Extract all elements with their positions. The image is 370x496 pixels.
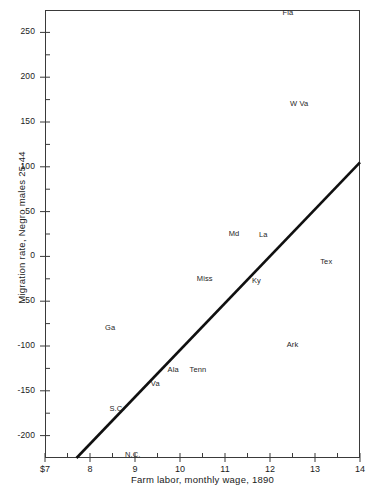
data-point-label: Fla bbox=[283, 9, 294, 17]
x-axis-tick-label: 14 bbox=[340, 464, 370, 474]
plot-area bbox=[45, 10, 360, 458]
data-point-label: Ga bbox=[105, 324, 115, 332]
data-point-label: S.C. bbox=[109, 405, 124, 413]
data-point-label: Tex bbox=[320, 258, 332, 266]
data-point-label: N.C. bbox=[125, 451, 141, 459]
y-axis-title: Migration rate, Negro males 25-44 bbox=[16, 118, 27, 338]
data-point-label: Va bbox=[151, 380, 160, 388]
x-axis-tick-label: 9 bbox=[115, 464, 155, 474]
x-axis-title: Farm labor, monthly wage, 1890 bbox=[45, 474, 360, 485]
data-point-label: Ala bbox=[168, 366, 179, 374]
x-axis-tick-label: 13 bbox=[295, 464, 335, 474]
data-point-label: W Va bbox=[290, 100, 308, 108]
data-point-label: La bbox=[259, 231, 268, 239]
y-axis-tick-label: -200 bbox=[0, 431, 35, 440]
scatter-plot-figure: 250200150100500-50-100-150-200 $78910111… bbox=[0, 0, 370, 496]
x-axis-tick-label: 11 bbox=[205, 464, 245, 474]
y-axis-tick-label: -150 bbox=[0, 386, 35, 395]
data-point-label: Ky bbox=[252, 277, 261, 285]
data-point-label: Miss bbox=[197, 275, 213, 283]
data-point-label: Md bbox=[229, 230, 240, 238]
data-point-label: Ark bbox=[287, 341, 299, 349]
y-axis-tick-label: 200 bbox=[0, 72, 35, 81]
x-axis-tick-label: 12 bbox=[250, 464, 290, 474]
x-axis-tick-label: 8 bbox=[70, 464, 110, 474]
x-axis-tick-label: $7 bbox=[25, 464, 65, 474]
data-point-label: Tenn bbox=[190, 366, 207, 374]
x-axis-tick-label: 10 bbox=[160, 464, 200, 474]
y-axis-tick-label: 250 bbox=[0, 27, 35, 36]
y-axis-tick-label: -100 bbox=[0, 341, 35, 350]
